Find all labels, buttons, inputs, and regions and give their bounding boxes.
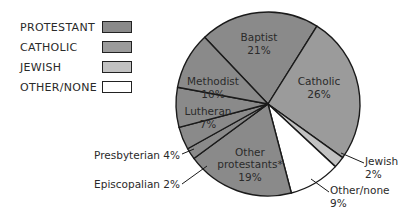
catholic-pct: 26% [307, 88, 330, 100]
other-protestants-pct: 19% [238, 171, 261, 183]
othernone-leader-line [311, 179, 329, 192]
other-protestants-label-line2: protestants* [217, 158, 282, 170]
lutheran-label: Lutheran [185, 105, 232, 117]
catholic-label: Catholic [298, 75, 341, 87]
baptist-pct: 21% [247, 44, 270, 56]
jewish-leader-line [341, 153, 364, 163]
pie-chart: Baptist 21% Catholic 26% Methodist 10% L… [0, 0, 414, 210]
episcopalian-label: Episcopalian 2% [94, 178, 180, 190]
jewish-pct: 2% [365, 168, 382, 180]
episcopalian-leader-line [182, 166, 207, 184]
methodist-pct: 10% [201, 88, 224, 100]
othernone-pct: 9% [330, 197, 347, 209]
othernone-label: Other/none [330, 184, 390, 196]
methodist-label: Methodist [187, 75, 239, 87]
baptist-label: Baptist [241, 31, 278, 43]
jewish-label: Jewish [364, 155, 398, 167]
other-protestants-label-line1: Other [235, 146, 265, 158]
presbyterian-label: Presbyterian 4% [94, 149, 180, 161]
lutheran-pct: 7% [200, 118, 217, 130]
